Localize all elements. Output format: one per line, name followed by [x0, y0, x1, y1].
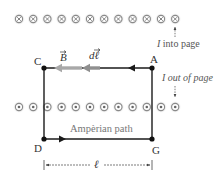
- current-out-of-page-icon: [41, 101, 53, 113]
- corner-label-g: G: [152, 144, 160, 156]
- into-page-label: I into page: [156, 38, 200, 49]
- corner-label-c: C: [34, 55, 41, 67]
- current-out-of-page-icon: [27, 101, 39, 113]
- current-out-of-page-icon: [55, 101, 67, 113]
- current-into-page-icon: [169, 13, 181, 25]
- corner-dot-a: [149, 65, 154, 70]
- current-into-page-icon: [126, 13, 138, 25]
- amperian-path-label: Ampèrian path: [70, 123, 133, 134]
- current-out-of-page-icon: [84, 101, 96, 113]
- current-into-page-icon: [141, 13, 153, 25]
- current-out-of-page-icon: [169, 101, 181, 113]
- corner-label-a: A: [150, 53, 158, 65]
- current-into-page-row: [13, 13, 182, 25]
- direction-arrow-top-icon: [128, 65, 135, 72]
- dl-vector-label: dℓ: [89, 49, 100, 61]
- current-into-page-icon: [84, 13, 96, 25]
- corner-label-d: D: [34, 142, 42, 154]
- current-into-page-icon: [70, 13, 82, 25]
- current-into-page-icon: [55, 13, 67, 25]
- b-field-vector: [54, 64, 82, 72]
- current-out-of-page-icon: [112, 101, 124, 113]
- current-into-page-icon: [112, 13, 124, 25]
- current-out-of-page-icon: [70, 101, 82, 113]
- current-out-of-page-row: [13, 101, 182, 113]
- current-out-of-page-icon: [141, 101, 153, 113]
- out-of-page-label: I out of page: [161, 72, 213, 83]
- current-into-page-icon: [155, 13, 167, 25]
- current-into-page-icon: [13, 13, 25, 25]
- length-label: ℓ: [94, 158, 99, 170]
- current-out-of-page-icon: [126, 101, 138, 113]
- current-out-of-page-icon: [13, 101, 25, 113]
- current-into-page-icon: [27, 13, 39, 25]
- direction-arrow-bottom-icon: [59, 136, 66, 143]
- amperian-path-diagram: B dℓ C A D G I into page I out of page A…: [0, 0, 222, 176]
- b-vector-label: B: [60, 51, 67, 63]
- current-into-page-icon: [41, 13, 53, 25]
- corner-dot-c: [41, 65, 46, 70]
- current-out-of-page-icon: [155, 101, 167, 113]
- current-out-of-page-icon: [98, 101, 110, 113]
- corner-dot-d: [41, 136, 46, 141]
- dl-vector: [82, 64, 100, 72]
- current-into-page-icon: [98, 13, 110, 25]
- corner-dot-g: [149, 136, 154, 141]
